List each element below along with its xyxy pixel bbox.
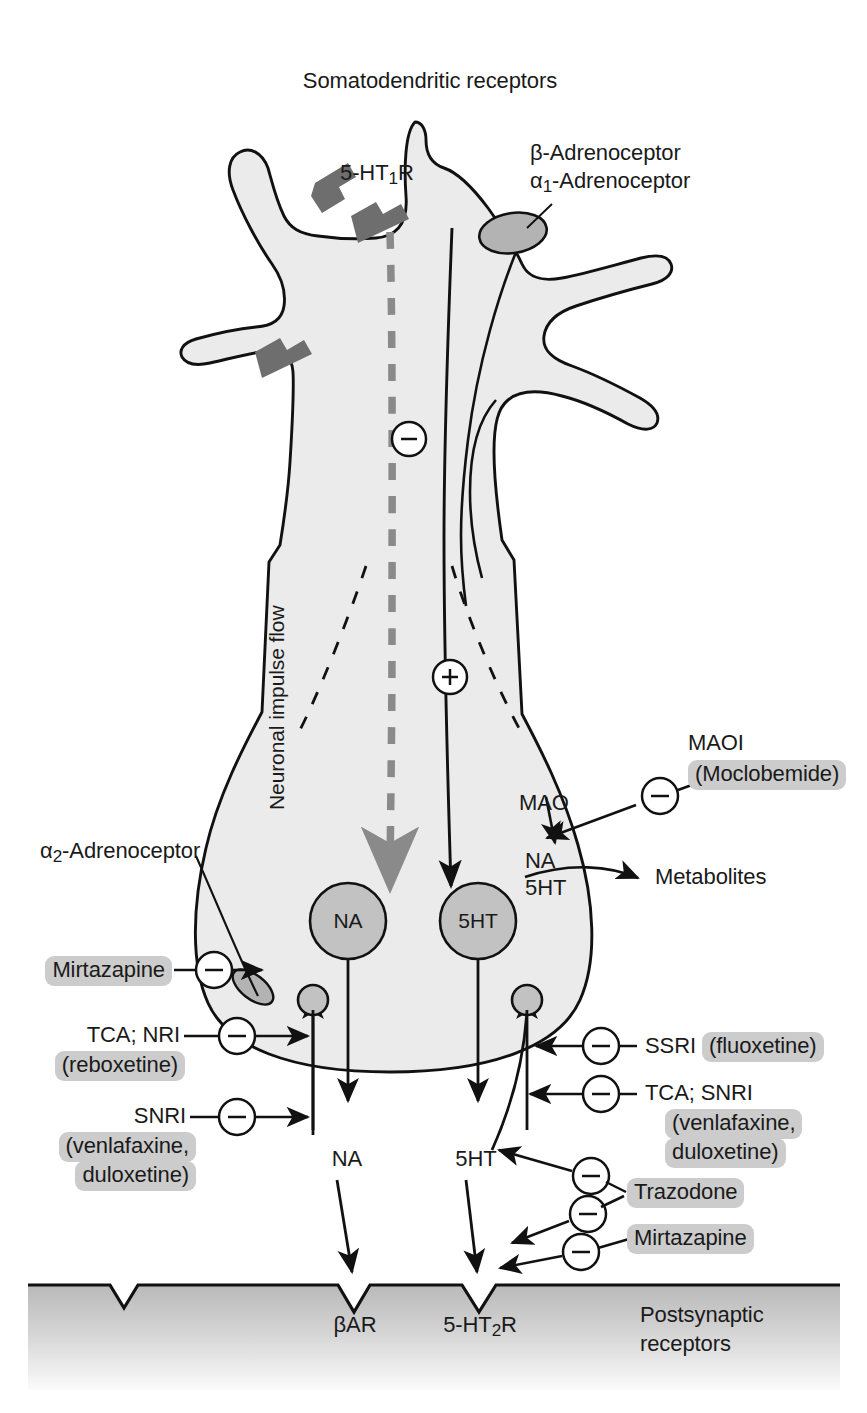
alpha2-adrenoceptor-label: α2-Adrenoceptor	[40, 838, 200, 867]
na-to-bar-arrow	[337, 1180, 352, 1272]
cleft-5ht-label: 5HT	[436, 1146, 516, 1173]
alpha2-suffix: -Adrenoceptor	[62, 838, 200, 863]
postsynaptic-label-line2: receptors	[640, 1331, 731, 1358]
ht2r-suffix: R	[501, 1312, 517, 1337]
minus-circle-icon-somatodendritic	[392, 422, 426, 456]
trazodone-text: Trazodone	[627, 1178, 744, 1208]
venlafaxine-duloxetine-left-line2: duloxetine)	[0, 1161, 196, 1191]
ht2r-text: 5-HT	[443, 1312, 492, 1337]
ht5-to-ht2r-arrow	[466, 1180, 477, 1272]
snri-left-label: SNRI	[0, 1103, 186, 1130]
maoi-label: MAOI	[688, 730, 744, 757]
bar-receptor-label: βAR	[310, 1312, 400, 1339]
venlafaxine-duloxetine-right-line1: (venlafaxine,	[665, 1109, 802, 1139]
metabolites-label: Metabolites	[655, 864, 766, 891]
alpha2-subscript: 2	[53, 846, 62, 866]
trazodone-action-upper	[499, 1150, 626, 1194]
page-title: Somatodendritic receptors	[285, 68, 575, 95]
duloxetine-right-text: duloxetine)	[665, 1138, 786, 1168]
vesicle-5ht-label: 5HT	[443, 908, 513, 934]
mirtazapine-right-label: Mirtazapine	[627, 1224, 754, 1254]
ht5-substrate-label: 5HT	[525, 875, 566, 902]
tca-snri-right-action	[530, 1076, 637, 1112]
venlafaxine-duloxetine-left-line1: (venlafaxine,	[0, 1132, 196, 1162]
postsynaptic-label-line1: Postsynaptic	[640, 1302, 764, 1329]
cleft-na-label: NA	[312, 1146, 382, 1173]
plus-circle-icon-axon	[433, 660, 467, 694]
neuronal-impulse-flow-label: Neuronal impulse flow	[264, 560, 290, 810]
trazodone-label: Trazodone	[627, 1178, 744, 1208]
ht1r-suffix: R	[398, 160, 414, 185]
trazodone-action-lower	[512, 1196, 624, 1243]
tca-snri-right-label: TCA; SNRI	[645, 1080, 753, 1107]
moclobemide-text: (Moclobemide)	[688, 760, 846, 790]
ht2r-subscript: 2	[492, 1320, 501, 1340]
mirtazapine-left-label: Mirtazapine	[0, 956, 172, 986]
reboxetine-text: (reboxetine)	[55, 1051, 185, 1081]
antidepressant-neuron-diagram: Somatodendritic receptors 5-HT1R β-Adren…	[0, 0, 867, 1413]
alpha1-subscript: 1	[543, 176, 552, 196]
neuron-outline	[181, 122, 672, 1072]
vesicle-na-label: NA	[313, 908, 383, 934]
alpha1-suffix: -Adrenoceptor	[552, 168, 690, 193]
minus-circle-icon-maoi	[642, 778, 678, 814]
venlafaxine-duloxetine-right-line2: duloxetine)	[665, 1138, 786, 1168]
alpha1-symbol: α	[530, 168, 543, 193]
snri-left-action	[190, 1099, 308, 1135]
ssri-label: SSRI (fluoxetine)	[645, 1032, 824, 1062]
duloxetine-left-text: duloxetine)	[75, 1161, 196, 1191]
reboxetine-label: (reboxetine)	[0, 1051, 185, 1081]
mirtazapine-left-text: Mirtazapine	[45, 956, 172, 986]
ht1r-label: 5-HT1R	[340, 160, 414, 189]
mao-label: MAO	[519, 790, 569, 817]
alpha2-symbol: α	[40, 838, 53, 863]
venlafaxine-right-text: (venlafaxine,	[665, 1109, 802, 1139]
ht1r-subscript: 1	[389, 168, 398, 188]
venlafaxine-left-text: (venlafaxine,	[59, 1132, 196, 1162]
neuron-soma-dendrites	[181, 122, 672, 1072]
beta-adrenoceptor-label: β-Adrenoceptor	[530, 140, 681, 167]
fluoxetine-text: (fluoxetine)	[702, 1032, 824, 1062]
ssri-prefix-text: SSRI	[645, 1033, 702, 1058]
na-substrate-label: NA	[525, 848, 555, 875]
tca-nri-label: TCA; NRI	[0, 1022, 180, 1049]
moclobemide-label: (Moclobemide)	[688, 760, 846, 790]
ht1r-text: 5-HT	[340, 160, 389, 185]
alpha1-adrenoceptor-label: α1-Adrenoceptor	[530, 168, 690, 197]
ht2r-receptor-label: 5-HT2R	[425, 1312, 535, 1341]
mirtazapine-right-text: Mirtazapine	[627, 1224, 754, 1254]
